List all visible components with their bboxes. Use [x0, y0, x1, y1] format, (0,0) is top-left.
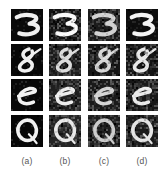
glyph-patch-a1 — [11, 9, 43, 41]
patch-grid — [11, 9, 158, 149]
glyph-patch-b3 — [49, 79, 81, 111]
glyph-patch-d4 — [126, 115, 158, 147]
glyph-patch-d2 — [126, 44, 158, 76]
glyph-patch-b4 — [49, 115, 81, 147]
glyph-patch-a4 — [11, 115, 43, 147]
column-caption-b: (b) — [49, 155, 81, 167]
glyph-patch-d3 — [126, 79, 158, 111]
glyph-patch-c3 — [88, 79, 120, 111]
column-caption-a: (a) — [11, 155, 43, 167]
glyph-patch-c1 — [88, 9, 120, 41]
glyph-patch-b1 — [49, 9, 81, 41]
glyph-patch-c2 — [88, 44, 120, 76]
glyph-patch-a3 — [11, 79, 43, 111]
column-caption-row: (a) (b) (c) (d) — [0, 155, 165, 169]
glyph-patch-b2 — [49, 44, 81, 76]
column-caption-d: (d) — [126, 155, 158, 167]
glyph-patch-c4 — [88, 115, 120, 147]
figure-image-grid: (a) (b) (c) (d) — [0, 0, 165, 179]
glyph-patch-d1 — [126, 9, 158, 41]
glyph-patch-a2 — [11, 44, 43, 76]
column-caption-c: (c) — [88, 155, 120, 167]
